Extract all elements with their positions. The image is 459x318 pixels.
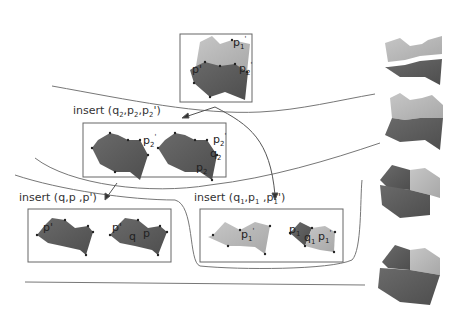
label-p1-prime-right: p1' <box>318 230 331 245</box>
label-p2-prime-top: p2' <box>239 62 252 77</box>
label-q2: q2 <box>210 148 221 162</box>
diagram-graphics <box>0 0 459 318</box>
label-p2: p2 <box>196 162 207 176</box>
right-step-3 <box>380 165 440 218</box>
label-p-prime-top: p' <box>192 64 202 75</box>
arrowhead-q2 <box>182 113 189 118</box>
caption-insert-q: insert (q,p ,p') <box>19 192 97 203</box>
label-q: q <box>129 231 136 242</box>
label-p-prime-right: p' <box>112 222 122 233</box>
label-p2-prime-left: p2' <box>143 134 156 149</box>
caption-insert-q1: insert (q1,p1 ,p1') <box>194 192 285 206</box>
label-p2-prime-right: p2' <box>213 133 226 148</box>
right-step-2 <box>385 93 443 150</box>
label-q1: q1 <box>304 232 315 246</box>
caption-insert-q2: insert (q2,p2,p2') <box>73 105 161 119</box>
label-p-prime-left: p' <box>43 222 53 233</box>
right-step-4 <box>378 245 440 305</box>
baseline <box>25 282 365 285</box>
separator-curves <box>15 86 380 285</box>
right-step-1 <box>385 36 442 85</box>
arrow-to-q1 <box>215 107 275 195</box>
box-q1-left-shape <box>208 222 270 254</box>
label-p: p <box>143 228 150 239</box>
label-p1-prime-top: p1' <box>233 36 246 51</box>
label-p1: p1 <box>289 224 300 238</box>
diagram-canvas: p1' p' p2' insert (q2,p2,p2') insert (q,… <box>0 0 459 318</box>
label-p1-prime-left: p1' <box>241 228 254 243</box>
